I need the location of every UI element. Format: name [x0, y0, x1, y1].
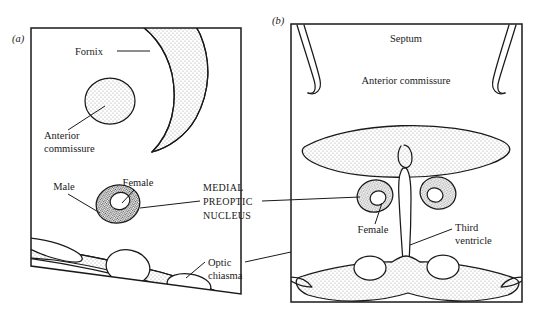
label-optic-chiasma-line1: Optic — [208, 257, 232, 268]
septum-horn-left-inner — [304, 25, 320, 94]
figure-root: (a) — [0, 0, 555, 318]
label-third-ventricle-line1: Third — [455, 222, 479, 233]
preoptic-recess-oval-left — [354, 256, 386, 280]
anatomy-figure: (a) — [0, 0, 555, 318]
label-anterior-commissure-a-line2: commissure — [44, 143, 95, 154]
fornix-shape — [118, 0, 208, 152]
panel-b-content — [291, 25, 522, 301]
septum-horn-right-inner — [493, 25, 509, 94]
septum-horn-right-outer — [498, 25, 516, 93]
leader-third-ventricle — [410, 229, 452, 245]
preoptic-nucleus-b-right — [417, 173, 460, 213]
label-female-b: Female — [358, 224, 389, 235]
panel-b-tag: (b) — [272, 15, 285, 27]
medial-preoptic-nucleus-label: MEDIAL PREOPTIC NUCLEUS — [140, 182, 360, 221]
label-optic-chiasma-line2: chiasma — [208, 270, 243, 281]
leader-mpn-left — [140, 201, 200, 208]
label-female-a: Female — [123, 177, 154, 188]
preoptic-recess-oval-right — [427, 255, 459, 279]
label-septum: Septum — [390, 33, 422, 44]
mpn-line3: NUCLEUS — [203, 210, 251, 221]
panel-a: (a) — [12, 0, 291, 299]
label-male: Male — [53, 181, 75, 192]
panel-b: (b) — [272, 15, 522, 302]
mpn-line1: MEDIAL — [203, 182, 244, 193]
anterior-commissure-a-shape — [85, 78, 135, 124]
mpn-line2: PREOPTIC — [203, 196, 253, 207]
panel-a-tag: (a) — [12, 33, 25, 45]
leader-optic-chiasma-right — [245, 252, 291, 262]
leader-mpn-right — [262, 197, 360, 201]
septum-horn-left-outer — [297, 25, 315, 93]
label-third-ventricle-line2: ventricle — [455, 235, 492, 246]
leader-male — [68, 194, 100, 213]
label-anterior-commissure-a-line1: Anterior — [44, 130, 80, 141]
preoptic-nucleus-b-left — [353, 176, 396, 217]
label-fornix: Fornix — [75, 46, 104, 57]
label-anterior-commissure-b: Anterior commissure — [362, 75, 451, 86]
optic-chiasma-b-shape — [296, 256, 519, 301]
third-ventricle-shape — [399, 168, 411, 267]
